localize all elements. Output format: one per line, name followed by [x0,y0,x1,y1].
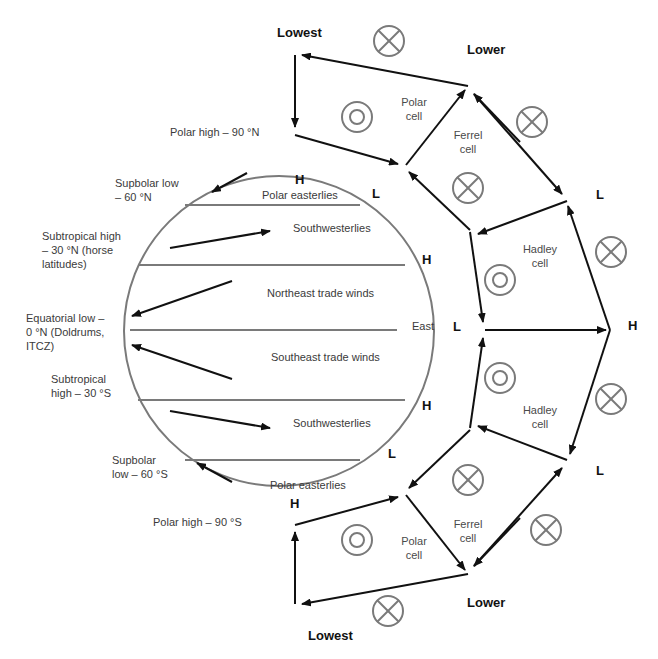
into-page-icon [453,173,483,203]
pressure-l-outer-n: L [596,187,604,202]
hadley-cell-s-label-2: cell [532,418,549,430]
se-trades-label: Southeast trade winds [271,351,380,363]
se-trades-arrow [132,345,232,379]
out-of-page-icon [342,525,372,555]
altitude-lower-top: Lower [467,42,505,57]
hadley-n-descend [478,201,567,234]
pressure-h-pole-s: H [290,496,299,511]
into-page-icon [517,107,547,137]
polar-cell-s-label-2: cell [406,549,423,561]
ferrel-cell-s-label-2: cell [460,532,477,544]
into-page-icon [596,237,626,267]
polar-easterlies-n-arrow [212,173,247,192]
subtropical-high-n-label-2: – 30 °N (horse [42,244,113,256]
subtropical-high-n-label-3: latitudes) [42,258,87,270]
into-page-icon [531,515,561,545]
ferrel-s-surface [409,430,470,488]
southwesterlies-n-label: Southwesterlies [293,222,371,234]
hadley-cell-s-label-1: Hadley [523,404,558,416]
east-label: East [412,320,434,332]
pressure-h-30n: H [422,252,431,267]
subpolar-low-s-label-2: low – 60 °S [112,468,168,480]
polar-cell-n-label-1: Polar [401,96,427,108]
pressure-h-outer-eq: H [628,318,637,333]
equatorial-low-label-3: ITCZ) [26,340,54,352]
pressure-l-60n: L [372,186,380,201]
polar-n-surface [295,135,398,164]
pressure-l-eq: L [453,319,461,334]
polar-easterlies-s-arrow [197,463,232,482]
southwesterlies-s-arrow [170,411,270,428]
hadley-cell-n-label-1: Hadley [523,243,558,255]
out-of-page-icon [485,363,515,393]
subpolar-low-s-label-1: Supbolar [112,454,156,466]
southwesterlies-s-label: Southwesterlies [293,417,371,429]
into-page-icon [373,596,403,626]
polar-s-top [302,574,468,604]
ferrel-cell-n-label-2: cell [460,143,477,155]
polar-s-surface [295,497,398,525]
polar-cell-n-label-2: cell [406,110,423,122]
into-page-icon [596,384,626,414]
out-of-page-icon [485,265,515,295]
hadley-s-surface [470,338,483,428]
circulation-diagram: Polar high – 90 °N Supbolar low – 60 °N … [0,0,658,659]
pressure-h-30s: H [422,398,431,413]
polar-easterlies-n-label: Polar easterlies [262,189,338,201]
subtropical-high-s-label-2: high – 30 °S [51,387,111,399]
hadley-n-outer-rise [568,206,610,330]
hadley-n-surface [470,232,483,322]
altitude-lower-bottom: Lower [467,595,505,610]
subpolar-low-n-label-1: Supbolar low [115,177,179,189]
polar-easterlies-s-label: Polar easterlies [270,479,346,491]
pressure-l-outer-s: L [596,463,604,478]
subpolar-low-n-label-2: – 60 °N [115,191,152,203]
hadley-cell-n-label-2: cell [532,257,549,269]
into-page-icon [374,26,404,56]
equatorial-low-label-2: 0 °N (Doldrums, [26,326,104,338]
ferrel-cell-n-label-1: Ferrel [454,129,483,141]
southwesterlies-n-arrow [170,231,270,248]
pressure-h-pole-n: H [295,172,304,187]
polar-n-top [302,55,468,86]
polar-high-n-label: Polar high – 90 °N [170,126,259,138]
ne-trades-label: Northeast trade winds [267,287,374,299]
surface-wind-arrows [132,173,270,482]
altitude-lowest-top: Lowest [277,25,322,40]
polar-cell-s-label-1: Polar [401,535,427,547]
into-page-icon [453,465,483,495]
hadley-s-descend [478,426,567,460]
altitude-lowest-bottom: Lowest [308,628,353,643]
subtropical-high-n-label-1: Subtropical high [42,230,121,242]
polar-high-s-label: Polar high – 90 °S [153,516,242,528]
ne-trades-arrow [132,281,232,316]
out-of-page-icon [342,102,372,132]
pressure-l-60s: L [388,446,396,461]
ferrel-cell-s-label-1: Ferrel [454,518,483,530]
subtropical-high-s-label-1: Subtropical [51,373,106,385]
equatorial-low-label-1: Equatorial low – [26,312,105,324]
